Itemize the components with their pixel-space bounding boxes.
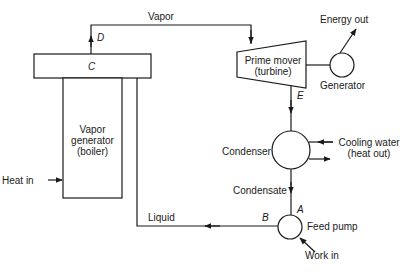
turbine-label: Prime mover (turbine) bbox=[240, 55, 306, 77]
condenser bbox=[272, 131, 310, 169]
label-energy-out: Energy out bbox=[320, 14, 368, 25]
label-work-in: Work in bbox=[305, 250, 339, 261]
generator bbox=[330, 53, 354, 77]
label-point-b: B bbox=[262, 212, 269, 223]
label-vapor: Vapor bbox=[148, 11, 174, 22]
boiler-label: Vapor generator (boiler) bbox=[63, 124, 122, 157]
label-point-a: A bbox=[297, 204, 304, 215]
label-point-d: D bbox=[97, 32, 104, 43]
energy-out-arrow bbox=[340, 29, 356, 53]
vapor-line bbox=[91, 25, 251, 54]
feed-pump bbox=[278, 215, 302, 239]
label-point-e: E bbox=[297, 90, 304, 101]
label-condensate: Condensate bbox=[233, 185, 287, 196]
label-generator: Generator bbox=[320, 80, 365, 91]
label-feed-pump: Feed pump bbox=[307, 221, 358, 232]
label-liquid: Liquid bbox=[148, 212, 175, 223]
label-heat-in: Heat in bbox=[2, 175, 34, 186]
label-point-c: C bbox=[88, 61, 95, 72]
label-condenser: Condenser bbox=[222, 146, 271, 157]
label-cooling-water: Cooling water (heat out) bbox=[331, 137, 407, 159]
